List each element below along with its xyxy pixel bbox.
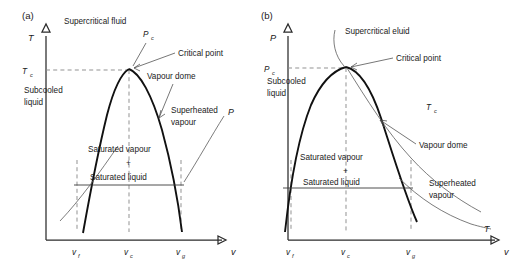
panel-b-x-axis-label: v xyxy=(504,247,510,257)
panel-a-y-axis-label: T xyxy=(28,33,35,43)
panel-b-saturated-plus-text: + xyxy=(343,167,348,176)
panel-b-subcooled-liquid-line1: Subcooled xyxy=(267,77,306,86)
panel-a-temperature-volume-diagram: (a) T v T c P Supercritical fluid P xyxy=(0,0,259,266)
panel-b-y-tick-label: P xyxy=(264,65,270,74)
panel-a-critical-pressure-leader xyxy=(133,43,146,66)
panel-a-label: (a) xyxy=(22,10,34,21)
panel-b-critical-isotherm-label: T xyxy=(426,103,432,112)
panel-b-saturated-liquid-text: Saturated liquid xyxy=(303,178,360,187)
panel-b-y-tick-sub: c xyxy=(272,70,275,76)
panel-a-critical-pressure-label: P xyxy=(143,30,149,39)
panel-b-superheated-vapour-line2: vapour xyxy=(429,191,454,200)
panel-a-x-tick-vf-sub: f xyxy=(78,253,81,259)
panel-b-x-tick-vc-base: v xyxy=(341,248,346,257)
panel-a-superheated-vapour-line1: Superheated xyxy=(171,106,218,115)
panel-a-saturated-liquid-text: Saturated liquid xyxy=(90,173,147,182)
panel-a-isobar-label: P xyxy=(228,107,234,117)
panel-a-x-tick-vg-sub: g xyxy=(182,253,186,259)
panel-a-isobar-lower-segment xyxy=(60,146,118,221)
panel-a-supercritical-fluid-label: Supercritical fluid xyxy=(64,17,127,26)
panel-b-x-tick-vg-base: v xyxy=(406,248,411,257)
panel-a-saturated-plus-text: + xyxy=(126,159,131,168)
panel-b-critical-isotherm-sub: c xyxy=(434,108,437,114)
panel-b-superheated-vapour-line1: Superheated xyxy=(429,179,476,188)
phase-diagram-figure: (a) T v T c P Supercritical fluid P xyxy=(0,0,518,266)
panel-a-y-tick-sub: c xyxy=(30,72,33,78)
panel-a-subcooled-liquid-line1: Subcooled xyxy=(24,86,63,95)
panel-a-critical-point-label: Critical point xyxy=(178,49,224,58)
panel-a-x-tick-vc-sub: c xyxy=(130,253,133,259)
panel-b-critical-point-leader xyxy=(351,58,393,67)
panel-b-saturated-vapour-line xyxy=(346,67,417,222)
panel-b-x-tick-vf-sub: f xyxy=(292,253,295,259)
panel-a-subcooled-liquid-line2: liquid xyxy=(24,98,44,107)
panel-a-superheated-vapour-line2: vapour xyxy=(171,118,196,127)
panel-a-x-tick-vg-base: v xyxy=(176,248,181,257)
panel-b-saturated-vapour-text: Saturated vapour xyxy=(300,153,363,162)
panel-b-y-axis-label: P xyxy=(270,33,277,43)
panel-a-y-tick-label: T xyxy=(22,67,28,76)
panel-b-supercritical-fluid-label: Supercritical eluid xyxy=(345,27,410,36)
panel-b-isotherm-label: T xyxy=(484,224,490,234)
panel-b-x-tick-vc-sub: c xyxy=(347,253,350,259)
panel-b-label: (b) xyxy=(261,10,273,21)
panel-a-vapour-dome-label: Vapour dome xyxy=(147,72,196,81)
panel-b-subcooled-liquid-line2: liquid xyxy=(267,89,287,98)
panel-b-critical-point-label: Critical point xyxy=(396,54,442,63)
panel-a-saturated-vapour-text: Saturated vapour xyxy=(88,145,151,154)
panel-a-x-axis-label: v xyxy=(231,247,237,257)
panel-a-critical-point-leader xyxy=(134,53,175,68)
panel-b-supercritical-branch xyxy=(334,30,344,66)
panel-a-critical-point-arrowhead xyxy=(134,64,140,71)
panel-a-y-axis-arrow xyxy=(42,24,50,32)
panel-b-critical-isotherm-curve xyxy=(347,68,481,212)
panel-b-pressure-volume-diagram: (b) P v P c T c T Supercr xyxy=(259,0,518,266)
panel-b-y-axis-arrow xyxy=(284,24,292,32)
panel-b-x-tick-vf-base: v xyxy=(286,248,291,257)
panel-b-vapour-dome-label: Vapour dome xyxy=(419,141,468,150)
panel-b-x-tick-vg-sub: g xyxy=(412,253,416,259)
panel-a-x-tick-vf-base: v xyxy=(72,248,77,257)
panel-a-x-tick-vc-base: v xyxy=(124,248,129,257)
panel-a-critical-pressure-sub: c xyxy=(151,35,154,41)
panel-b-saturated-liquid-line xyxy=(285,67,346,232)
